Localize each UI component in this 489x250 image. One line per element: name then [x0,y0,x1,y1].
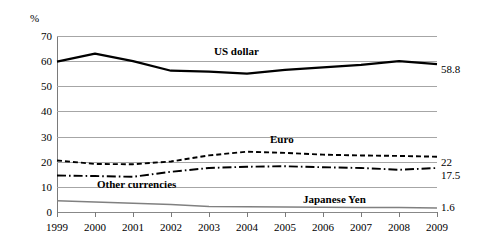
x-axis-ticks [57,212,437,217]
x-tick-2007 [361,212,362,217]
x-tick-2004 [247,212,248,217]
x-tick-2001 [133,212,134,217]
series-label-euro: Euro [270,134,294,145]
y-tick-label-30: 30 [22,131,52,142]
series-line-japanese-yen [57,201,437,208]
x-tick-2006 [323,212,324,217]
series-label-other-currencies: Other currencies [97,179,176,190]
x-tick-2009 [437,212,438,217]
y-tick-label-50: 50 [22,81,52,92]
x-tick-2000 [95,212,96,217]
series-label-us-dollar: US dollar [214,46,259,57]
y-tick-label-10: 10 [22,181,52,192]
y-tick-label-20: 20 [22,156,52,167]
x-tick-1999 [57,212,58,217]
x-tick-label-2009: 2009 [414,222,460,233]
y-tick-label-0: 0 [22,207,52,218]
series-line-other-currencies [57,166,437,177]
series-label-japanese-yen: Japanese Yen [303,194,366,205]
x-tick-2003 [209,212,210,217]
x-axis-tick-labels: 1999200020012002200320042005200620072008… [57,222,437,240]
currency-share-line-chart: % 706050403020100 1999200020012002200320… [0,0,489,250]
y-axis-unit-label: % [30,12,39,24]
y-tick-label-40: 40 [22,106,52,117]
series-line-euro [57,152,437,165]
x-tick-2005 [285,212,286,217]
y-tick-label-60: 60 [22,56,52,67]
x-tick-2008 [399,212,400,217]
end-value-us-dollar: 58.8 [441,64,460,75]
end-value-other-currencies: 17.5 [441,170,460,181]
x-tick-2002 [171,212,172,217]
end-value-euro: 22 [441,157,452,168]
y-tick-label-70: 70 [22,31,52,42]
end-value-japanese-yen: 1.6 [441,202,455,213]
y-axis-tick-labels: 706050403020100 [18,36,52,212]
